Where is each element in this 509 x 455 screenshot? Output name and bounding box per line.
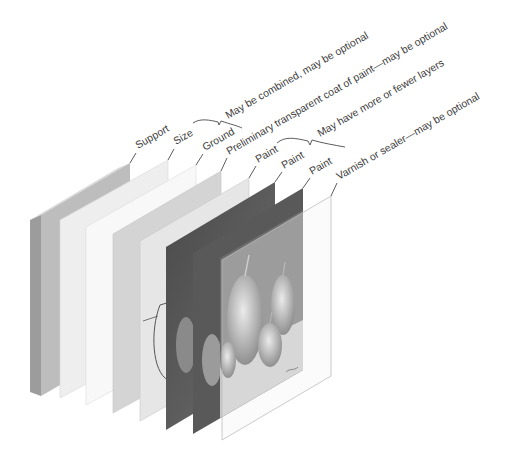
label-support: Support bbox=[133, 122, 171, 151]
label-paint-3: Paint bbox=[307, 154, 334, 176]
bracket-size-ground bbox=[193, 120, 242, 128]
bracket-paint-layers bbox=[277, 138, 345, 147]
label-paint-1: Paint bbox=[253, 142, 280, 164]
painting-layers-diagram: Support Size Ground Preliminary transpar… bbox=[0, 0, 509, 455]
label-paint-2: Paint bbox=[279, 148, 306, 170]
label-size: Size bbox=[171, 126, 195, 147]
